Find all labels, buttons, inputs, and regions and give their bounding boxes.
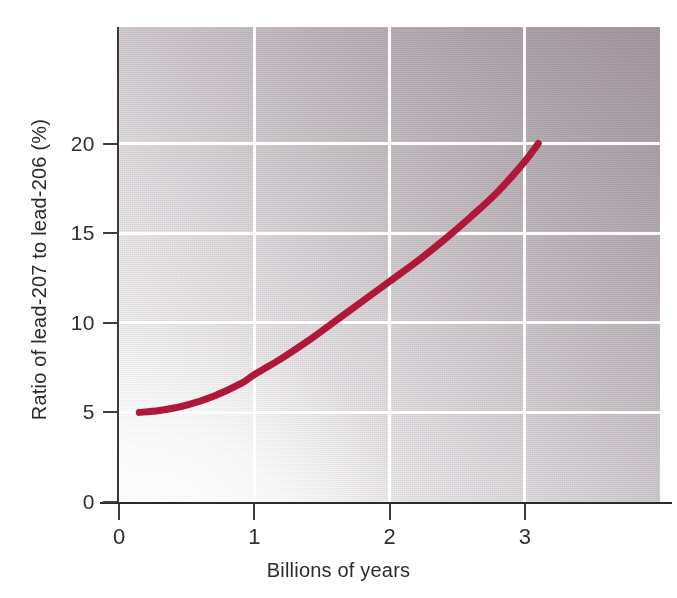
x-axis-tick-label: 0: [99, 524, 139, 550]
y-axis-tick-label: 20: [55, 132, 95, 156]
series-line-lead-ratio: [139, 144, 538, 413]
x-axis-tick-label: 2: [370, 524, 410, 550]
x-axis-tick-label: 3: [505, 524, 545, 550]
x-axis-title: Billions of years: [0, 559, 677, 582]
x-axis-line: [100, 502, 672, 504]
x-axis-tick: [524, 504, 526, 520]
y-axis-tick-label: 0: [55, 490, 95, 514]
y-axis-line: [117, 27, 119, 504]
chart-figure: 05101520 0123 Billions of years Ratio of…: [0, 0, 677, 598]
plot-area: [119, 27, 660, 502]
x-axis-tick: [118, 504, 120, 520]
y-axis-tick: [103, 143, 118, 145]
y-axis-title: Ratio of lead-207 to lead-206 (%): [28, 100, 51, 440]
x-axis-tick: [389, 504, 391, 520]
x-axis-tick: [253, 504, 255, 520]
x-axis-tick-label: 1: [234, 524, 274, 550]
y-axis-tick: [103, 501, 118, 503]
series-curve-layer: [119, 27, 660, 502]
y-axis-tick-label: 5: [55, 400, 95, 424]
y-axis-tick-label: 15: [55, 221, 95, 245]
y-axis-tick: [103, 322, 118, 324]
y-axis-tick-label: 10: [55, 311, 95, 335]
y-axis-tick: [103, 232, 118, 234]
y-axis-tick: [103, 411, 118, 413]
